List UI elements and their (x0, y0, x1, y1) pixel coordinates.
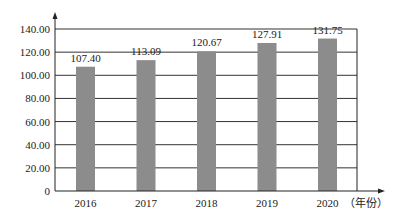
value-label: 107.40 (70, 52, 101, 64)
y-tick-label: 0 (45, 185, 51, 197)
bar (76, 67, 95, 191)
x-tick-label: 2020 (317, 197, 340, 209)
value-label: 113.09 (131, 45, 161, 57)
value-label: 120.67 (191, 36, 222, 48)
x-axis-arrow-icon (378, 189, 385, 194)
y-tick-label: 40.00 (25, 139, 50, 151)
x-tick-labels: 20162017201820192020 (75, 197, 340, 209)
y-tick-label: 120.00 (20, 46, 51, 58)
y-tick-label: 80.00 (25, 92, 50, 104)
bar (137, 60, 156, 191)
y-tick-label: 20.00 (25, 162, 50, 174)
y-tick-label: 140.00 (20, 23, 51, 35)
x-tick-label: 2017 (135, 197, 158, 209)
y-tick-label: 100.00 (20, 69, 51, 81)
bar (318, 39, 337, 191)
y-tick-label: 60.00 (25, 116, 50, 128)
x-tick-label: 2016 (75, 197, 98, 209)
bar (258, 43, 277, 191)
x-tick-label: 2018 (196, 197, 219, 209)
value-label: 127.91 (252, 28, 282, 40)
value-label: 131.75 (312, 24, 343, 36)
y-axis-arrow-icon (53, 12, 58, 19)
bar (197, 51, 216, 191)
x-tick-label: 2019 (256, 197, 279, 209)
x-axis-label: （年份） (344, 196, 388, 209)
bar-chart: 020.0040.0060.0080.00100.00120.00140.00 … (0, 0, 403, 222)
y-tick-labels: 020.0040.0060.0080.00100.00120.00140.00 (20, 23, 51, 197)
